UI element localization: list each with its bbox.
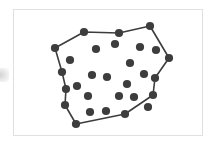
interior-point	[144, 103, 152, 111]
interior-point	[126, 59, 134, 67]
interior-point	[140, 70, 148, 78]
hull-outline	[55, 26, 169, 124]
hull-vertex-point	[151, 74, 159, 82]
interior-point	[130, 93, 138, 101]
interior-point	[102, 107, 110, 115]
hull-vertex-point	[72, 120, 80, 128]
interior-point	[111, 40, 119, 48]
hull-vertex-point	[80, 28, 88, 36]
hull-vertex-point	[149, 91, 157, 99]
interior-point	[123, 80, 131, 88]
hull-vertex-point	[61, 101, 69, 109]
interior-point	[66, 56, 74, 64]
hull-vertex-point	[146, 22, 154, 30]
hull-vertex-point	[121, 110, 129, 118]
figure-canvas	[0, 0, 215, 149]
interior-point	[86, 108, 94, 116]
interior-point	[115, 92, 123, 100]
hull-vertex-point	[58, 68, 66, 76]
interior-point	[84, 92, 92, 100]
hull-vertex-point	[51, 44, 59, 52]
interior-point	[88, 71, 96, 79]
interior-point	[103, 73, 111, 81]
interior-point	[92, 45, 100, 53]
interior-point	[152, 46, 160, 54]
interior-point	[73, 82, 81, 90]
hull-vertex-point	[115, 29, 123, 37]
hull-vertex-point	[165, 54, 173, 62]
convex-hull-polygon	[55, 26, 169, 124]
interior-point	[136, 43, 144, 51]
hull-vertex-point	[62, 85, 70, 93]
convex-hull-scatter-plot	[0, 0, 215, 149]
